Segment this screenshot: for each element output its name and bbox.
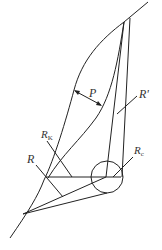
diagram-canvas: P R' RK R Rc [0, 0, 162, 250]
label-rk: RK [40, 128, 53, 142]
label-rc: Rc [133, 144, 144, 158]
label-p: P [88, 86, 97, 100]
label-rk-sub: K [48, 134, 53, 142]
right-vertical-line [122, 18, 130, 177]
outer-curve [10, 2, 148, 238]
tangent-line-2 [23, 193, 107, 214]
inner-curve [48, 22, 124, 178]
rk-leader [47, 141, 72, 177]
label-rc-sub: c [141, 150, 144, 158]
p-arrow-head-right [96, 101, 102, 106]
left-vertical-line [106, 22, 124, 177]
label-r-prime: R' [138, 87, 149, 101]
tangent-line-1 [23, 177, 106, 214]
r-leader [36, 165, 63, 197]
r-prime-leader [117, 96, 137, 114]
label-r: R [26, 152, 35, 166]
p-arrow-head-left [74, 90, 80, 95]
